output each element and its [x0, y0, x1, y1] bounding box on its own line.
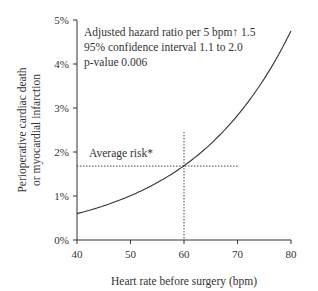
hazard-chart: 0%1%2%3%4%5%4050607080 Adjusted hazard r… [0, 0, 318, 291]
y-tick-label: 0% [54, 234, 69, 246]
x-tick-label: 70 [232, 248, 244, 260]
x-tick-label: 50 [125, 248, 137, 260]
y-tick-label: 5% [54, 14, 69, 26]
x-tick-label: 40 [72, 248, 84, 260]
average-risk-label: Average risk* [89, 147, 153, 160]
stats-line-2: 95% confidence interval 1.1 to 2.0 [84, 41, 243, 53]
y-tick-label: 2% [54, 146, 69, 158]
x-axis-label: Heart rate before surgery (bpm) [111, 275, 257, 288]
y-tick-label: 3% [54, 102, 69, 114]
y-axis-label-2: or myocardial infarction [30, 74, 43, 186]
stats-line-3: p-value 0.006 [84, 56, 147, 69]
y-tick-label: 1% [54, 190, 69, 202]
stats-line-1: Adjusted hazard ratio per 5 bpm↑ 1.5 [84, 26, 256, 39]
x-tick-label: 80 [286, 248, 298, 260]
y-tick-label: 4% [54, 58, 69, 70]
y-axis-label-1: Perioperative cardiac death [16, 67, 29, 192]
x-tick-label: 60 [179, 248, 191, 260]
